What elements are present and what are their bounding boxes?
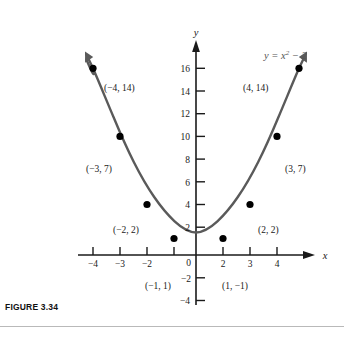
data-point bbox=[273, 133, 280, 140]
y-tick-label-10: 10 bbox=[181, 132, 191, 142]
x-tick-label-neg4: −4 bbox=[88, 259, 98, 269]
y-tick-label-12: 12 bbox=[181, 109, 191, 119]
x-tick-label-neg2: −2 bbox=[142, 259, 152, 269]
point-label-neg4-14: (−4, 14) bbox=[104, 83, 135, 94]
point-label-1-neg1: (1, −1) bbox=[222, 281, 248, 292]
bottom-divider bbox=[0, 326, 344, 327]
x-tick-label-2: 2 bbox=[221, 259, 226, 269]
equation-base: y = x bbox=[263, 50, 286, 61]
x-axis-label: x bbox=[322, 250, 328, 261]
data-point bbox=[170, 235, 177, 242]
graph-canvas: 16 14 12 10 8 6 4 2 0 −2 −4 −4 −3 −2 2 3… bbox=[0, 0, 344, 338]
y-axis-label: y bbox=[193, 27, 199, 38]
y-tick-marks bbox=[196, 68, 205, 300]
equation-tail: − 2 bbox=[289, 50, 307, 61]
x-tick-label-4: 4 bbox=[275, 259, 280, 269]
y-tick-label-8: 8 bbox=[185, 155, 190, 165]
figure-caption: FIGURE 3.34 bbox=[5, 302, 58, 312]
axes-group bbox=[78, 40, 315, 305]
x-axis-arrow-icon bbox=[303, 251, 315, 259]
data-point bbox=[116, 133, 123, 140]
point-label-neg3-7: (−3, 7) bbox=[86, 164, 112, 175]
point-label-2-2: (2, 2) bbox=[258, 225, 279, 236]
x-tick-marks bbox=[93, 247, 277, 255]
y-axis-arrow-icon bbox=[192, 40, 200, 52]
x-tick-label-3: 3 bbox=[248, 259, 253, 269]
y-tick-label-16: 16 bbox=[181, 64, 191, 74]
y-tick-label-neg4: −4 bbox=[180, 296, 190, 306]
y-tick-label-2: 2 bbox=[185, 223, 190, 233]
x-tick-labels: −4 −3 −2 2 3 4 bbox=[88, 259, 280, 269]
data-point bbox=[143, 201, 150, 208]
point-label-4-14: (4, 14) bbox=[243, 83, 268, 94]
y-tick-label-4: 4 bbox=[185, 200, 190, 210]
y-tick-label-14: 14 bbox=[181, 87, 191, 97]
equation-annotation: y = x2 − 2 bbox=[263, 49, 307, 61]
data-point bbox=[89, 65, 96, 72]
figure-container: 16 14 12 10 8 6 4 2 0 −2 −4 −4 −3 −2 2 3… bbox=[0, 0, 344, 338]
x-tick-label-neg3: −3 bbox=[115, 259, 125, 269]
point-label-neg2-2: (−2, 2) bbox=[113, 225, 139, 236]
point-label-neg1-1: (−1, 1) bbox=[145, 281, 171, 292]
data-point bbox=[246, 201, 253, 208]
y-tick-label-neg2: −2 bbox=[181, 274, 191, 284]
y-tick-label-0: 0 bbox=[186, 258, 191, 268]
y-tick-label-6: 6 bbox=[185, 178, 190, 188]
point-label-3-7: (3, 7) bbox=[285, 164, 306, 175]
data-point bbox=[295, 65, 302, 72]
svg-text:y = x2 − 2: y = x2 − 2 bbox=[263, 49, 307, 61]
data-point bbox=[219, 235, 226, 242]
y-tick-labels: 16 14 12 10 8 6 4 2 0 −2 −4 bbox=[180, 64, 191, 306]
